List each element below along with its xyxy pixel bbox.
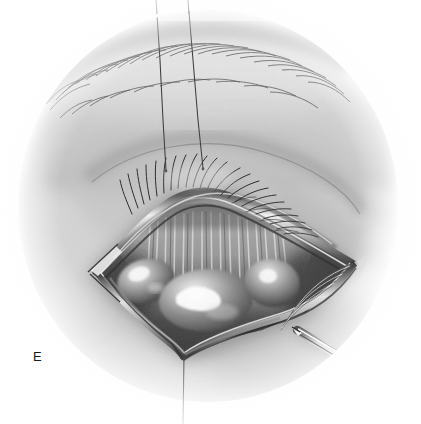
eyelid-surgery-illustration — [0, 0, 421, 424]
vignette-overlay — [0, 0, 421, 424]
figure-container: E — [0, 0, 421, 424]
figure-label: E — [33, 350, 42, 363]
